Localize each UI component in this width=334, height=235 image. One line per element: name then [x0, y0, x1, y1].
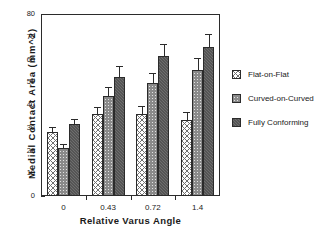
legend-item-curved-on-curved[interactable]: Curved-on-Curved: [232, 86, 332, 110]
bar: [192, 70, 203, 196]
legend-swatch-icon: [232, 70, 241, 79]
y-tick: [41, 196, 45, 197]
x-tick-label: 0.43: [88, 203, 128, 212]
y-tick-label: 20: [11, 147, 35, 155]
legend-item-flat-on-flat[interactable]: Flat-on-Flat: [232, 62, 332, 86]
bar: [58, 148, 69, 196]
bar: [147, 83, 158, 196]
error-bar-stem: [119, 66, 120, 76]
error-bar-cap: [60, 144, 67, 145]
error-bar-cap: [105, 87, 112, 88]
legend-label: Fully Conforming: [248, 118, 308, 127]
x-tick: [131, 196, 132, 200]
error-bar-cap: [183, 112, 190, 113]
bar: [114, 77, 125, 196]
error-bar-stem: [187, 112, 188, 120]
error-bar-stem: [97, 107, 98, 114]
error-bar-stem: [198, 58, 199, 69]
error-bar-cap: [138, 106, 145, 107]
error-bar-stem: [108, 87, 109, 96]
legend-swatch-icon: [232, 94, 241, 103]
y-tick-label: 60: [11, 56, 35, 64]
y-tick-label: 70: [11, 33, 35, 41]
error-bar-stem: [153, 73, 154, 83]
bar: [47, 132, 58, 196]
error-bar-stem: [209, 34, 210, 47]
error-bar-cap: [71, 119, 78, 120]
error-bar-stem: [164, 44, 165, 57]
error-bar-cap: [205, 34, 212, 35]
error-bar-cap: [116, 66, 123, 67]
bar-chart: Medial Contact Area (mm^2) 0102030405060…: [0, 0, 334, 235]
error-bar-stem: [142, 106, 143, 114]
legend-item-fully-conforming[interactable]: Fully Conforming: [232, 110, 332, 134]
error-bar-cap: [49, 127, 56, 128]
x-tick: [86, 196, 87, 200]
error-bar-cap: [94, 107, 101, 108]
legend: Flat-on-Flat Curved-on-Curved Fully Conf…: [232, 62, 332, 134]
x-tick-label: 0: [43, 203, 83, 212]
error-bar-cap: [160, 44, 167, 45]
x-tick-label: 1.4: [178, 203, 218, 212]
x-axis-title: Relative Varus Angle: [41, 215, 220, 226]
bar: [92, 114, 103, 196]
error-bar-cap: [149, 73, 156, 74]
legend-label: Curved-on-Curved: [248, 94, 314, 103]
legend-swatch-icon: [232, 118, 241, 127]
legend-label: Flat-on-Flat: [248, 70, 289, 79]
bar: [136, 114, 147, 196]
y-tick-label: 10: [11, 169, 35, 177]
bar: [203, 47, 214, 196]
y-tick-label: 50: [11, 78, 35, 86]
error-bar-cap: [194, 58, 201, 59]
bar: [158, 56, 169, 196]
y-tick-label: 80: [11, 10, 35, 18]
y-tick-label: 40: [11, 101, 35, 109]
bar: [103, 96, 114, 196]
bar: [181, 120, 192, 196]
x-tick-label: 0.72: [133, 203, 173, 212]
bar: [69, 124, 80, 196]
x-tick: [175, 196, 176, 200]
y-tick-label: 0: [11, 192, 35, 200]
y-tick-label: 30: [11, 124, 35, 132]
